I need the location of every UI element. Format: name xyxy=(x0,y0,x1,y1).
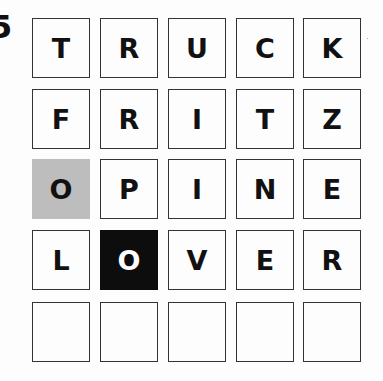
tile-r1-c3: U xyxy=(168,18,226,78)
tile-r4-c3: V xyxy=(168,230,226,290)
tile-r5-c4 xyxy=(236,302,294,362)
tile-r2-c5: Z xyxy=(303,89,361,149)
tile-r3-c2: P xyxy=(100,159,158,219)
tile-r4-c1: L xyxy=(32,230,90,290)
tile-r5-c3 xyxy=(168,302,226,362)
tile-r4-c4: E xyxy=(236,230,294,290)
tile-r3-c1: O xyxy=(32,159,90,219)
tile-r5-c1 xyxy=(32,302,90,362)
tile-r2-c3: I xyxy=(168,89,226,149)
tile-r1-c1: T xyxy=(32,18,90,78)
puzzle-number: 5 xyxy=(0,11,12,43)
tile-r3-c3: I xyxy=(168,159,226,219)
tile-r3-c5: E xyxy=(303,159,361,219)
tile-r1-c4: C xyxy=(236,18,294,78)
print-speck xyxy=(367,38,368,39)
tile-r5-c2 xyxy=(100,302,158,362)
tile-r2-c1: F xyxy=(32,89,90,149)
tile-r3-c4: N xyxy=(236,159,294,219)
tile-r5-c5 xyxy=(303,302,361,362)
tile-r2-c2: R xyxy=(100,89,158,149)
tile-r4-c2: O xyxy=(100,230,158,290)
tile-r1-c5: K xyxy=(303,18,361,78)
tile-r4-c5: R xyxy=(303,230,361,290)
tile-r2-c4: T xyxy=(236,89,294,149)
tile-r1-c2: R xyxy=(100,18,158,78)
